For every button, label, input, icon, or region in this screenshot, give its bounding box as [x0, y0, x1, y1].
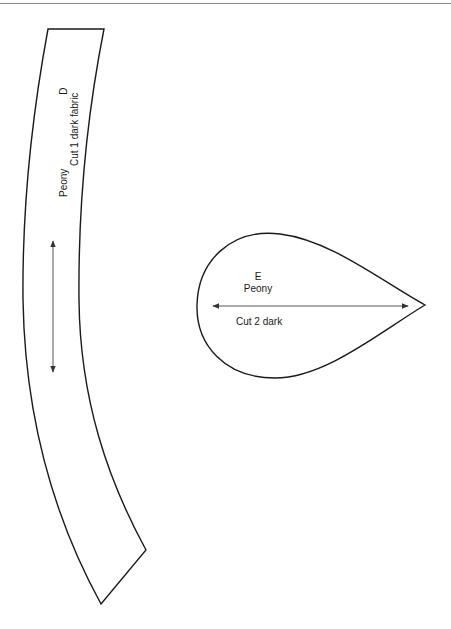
piece-d-outline	[23, 29, 146, 604]
piece-d-instruction: Cut 1 dark fabric	[69, 93, 81, 166]
piece-e-name: Peony	[236, 283, 280, 295]
pattern-piece-d	[23, 29, 146, 604]
piece-d-name: Peony	[58, 169, 70, 197]
pattern-piece-e	[197, 233, 425, 378]
piece-e-instruction: Cut 2 dark	[236, 316, 282, 328]
piece-e-letter: E	[238, 271, 278, 283]
